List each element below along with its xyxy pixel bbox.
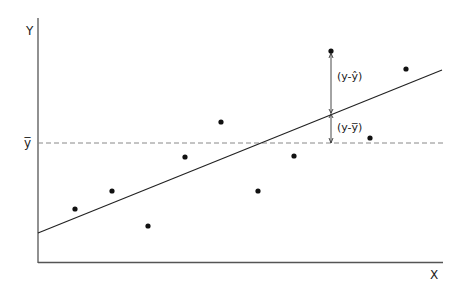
- data-point: [291, 153, 296, 158]
- data-point: [109, 188, 114, 193]
- y-axis-label: Y: [25, 24, 34, 38]
- residual-label: (y-ŷ): [337, 70, 362, 83]
- data-point: [145, 223, 150, 228]
- deviation-arrows: [329, 53, 333, 143]
- data-point: [218, 119, 223, 124]
- data-point: [182, 154, 187, 159]
- mean-label: y̅: [24, 136, 32, 150]
- x-axis-label: X: [430, 268, 438, 282]
- deviation-label: (y-y̅): [337, 121, 362, 134]
- regression-diagram: Y X y̅ (y-ŷ) (y-y̅): [0, 0, 467, 289]
- data-point: [255, 188, 260, 193]
- data-point: [367, 135, 372, 140]
- data-point: [403, 66, 408, 71]
- data-point: [72, 206, 77, 211]
- regression-line: [38, 70, 442, 233]
